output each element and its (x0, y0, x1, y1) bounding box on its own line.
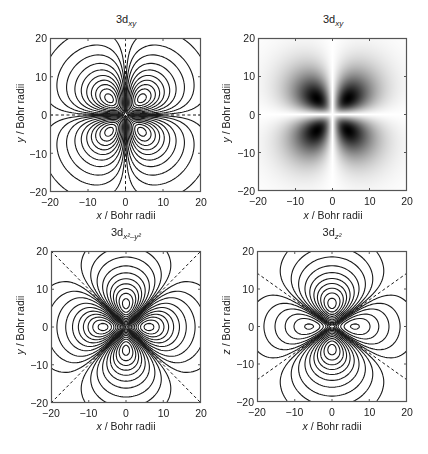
x-tick-label: −10 (80, 407, 98, 419)
y-axis-var: y (14, 349, 26, 354)
x-tick-label: 20 (401, 195, 413, 207)
x-axis-unit: / Bohr radii (309, 209, 363, 221)
x-tick-label: 10 (364, 406, 376, 418)
x-tick-label: −10 (79, 196, 97, 208)
y-axis-unit: / Bohr radii (14, 84, 26, 138)
x-axis-label: x / Bohr radii (303, 420, 362, 432)
y-axis-label: z / Bohr radii (220, 285, 232, 365)
x-tick-label: 20 (401, 406, 413, 418)
axes-frame (257, 251, 407, 402)
y-tick-label: 20 (243, 32, 255, 44)
chart-title: 3dxy (323, 13, 343, 28)
y-tick-label: 0 (248, 321, 254, 333)
y-tick-label: 20 (35, 32, 47, 44)
x-tick-label: 0 (123, 407, 129, 419)
chart-title: 3dz² (323, 226, 342, 241)
y-tick-label: −20 (237, 185, 255, 197)
y-tick-label: −10 (236, 358, 254, 370)
y-tick-label: 10 (243, 70, 255, 82)
y-tick-label: 20 (36, 245, 48, 257)
y-tick-label: 0 (42, 321, 48, 333)
y-tick-label: −10 (30, 359, 48, 371)
x-axis-label: x / Bohr radii (97, 420, 156, 432)
title-subscript: x²–y² (123, 232, 141, 241)
x-tick-label: 0 (330, 195, 336, 207)
y-tick-label: 0 (249, 109, 255, 121)
y-axis-label: y / Bohr radii (220, 73, 232, 153)
x-tick-label: 20 (195, 407, 207, 419)
y-tick-label: 20 (242, 245, 254, 257)
title-base: 3d (323, 13, 335, 25)
title-base: 3d (116, 13, 128, 25)
y-tick-label: −20 (30, 397, 48, 409)
y-axis-unit: / Bohr radii (14, 296, 26, 350)
x-axis-unit: / Bohr radii (308, 420, 362, 432)
x-axis-unit: / Bohr radii (102, 209, 156, 221)
x-tick-label: 0 (329, 406, 335, 418)
x-axis-unit: / Bohr radii (102, 420, 156, 432)
title-subscript: xy (128, 19, 136, 28)
chart-title: 3dx²–y² (111, 226, 141, 241)
x-axis-label: x / Bohr radii (97, 209, 156, 221)
y-tick-label: −10 (237, 147, 255, 159)
x-tick-label: 0 (123, 196, 129, 208)
x-tick-label: 10 (157, 196, 169, 208)
title-base: 3d (111, 226, 123, 238)
title-base: 3d (323, 226, 335, 238)
title-subscript: xy (335, 19, 343, 28)
y-axis-unit: / Bohr radii (220, 296, 232, 350)
y-tick-label: 10 (36, 283, 48, 295)
y-tick-label: 10 (35, 71, 47, 83)
axes-frame (258, 38, 407, 191)
y-tick-label: −10 (29, 148, 47, 160)
y-axis-var: y (220, 137, 232, 142)
chart-title: 3dxy (116, 13, 136, 28)
y-axis-var: y (14, 137, 26, 142)
y-tick-label: 0 (41, 109, 47, 121)
y-tick-label: −20 (29, 186, 47, 198)
x-tick-label: 10 (158, 407, 170, 419)
y-axis-label: y / Bohr radii (14, 73, 26, 153)
title-subscript: z² (335, 232, 342, 241)
y-axis-label: y / Bohr radii (14, 285, 26, 365)
y-axis-var: z (220, 349, 232, 354)
axes-frame (51, 251, 201, 403)
x-tick-label: 10 (364, 195, 376, 207)
x-tick-label: −10 (286, 195, 304, 207)
x-axis-label: x / Bohr radii (304, 209, 363, 221)
x-tick-label: −10 (286, 406, 304, 418)
y-axis-unit: / Bohr radii (220, 84, 232, 138)
y-tick-label: −20 (236, 396, 254, 408)
y-tick-label: 10 (242, 283, 254, 295)
x-tick-label: 20 (195, 196, 207, 208)
axes-frame (50, 38, 201, 192)
